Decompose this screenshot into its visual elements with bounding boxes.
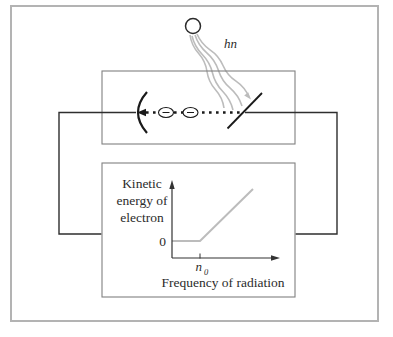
anode-plate-icon (228, 93, 263, 129)
figure-canvas: hn Kinetic ene (0, 0, 393, 337)
radiation-label: hn (224, 36, 237, 51)
graph-y-axis-label-line1: Kinetic (122, 176, 162, 191)
radiation-arrowhead-icon (244, 92, 251, 99)
light-source-icon (186, 19, 201, 34)
radiation-rays (190, 34, 249, 110)
graph-y-axis-label-line2: energy of (116, 193, 168, 208)
photoelectric-effect-figure: hn Kinetic ene (0, 0, 393, 337)
graph-origin-label: 0 (159, 234, 166, 249)
electron-symbol (159, 108, 174, 118)
electron-symbol (183, 108, 198, 118)
graph-threshold-label-base: n (196, 259, 203, 274)
phototube-box (102, 71, 295, 144)
graph-x-axis-label: Frequency of radiation (162, 275, 285, 290)
graph-y-axis-label-line3: electron (120, 210, 164, 225)
